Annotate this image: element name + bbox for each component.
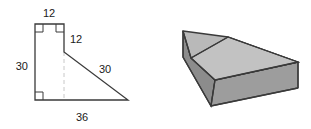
dimension-label-right-upper: 12 [70, 33, 82, 45]
dimension-label-slant: 30 [99, 63, 111, 75]
pictorial-solid-diagram [183, 31, 298, 106]
dimension-label-top: 12 [43, 7, 55, 19]
right-angle-mark-top-right [56, 24, 64, 32]
dimension-label-left: 30 [16, 60, 28, 72]
right-angle-mark-bottom-left [35, 92, 43, 100]
cross-section-diagram: 12 12 30 30 36 [16, 7, 128, 123]
geometry-figure: 12 12 30 30 36 [0, 0, 311, 129]
dimension-label-bottom: 36 [76, 111, 88, 123]
right-angle-mark-top-left [35, 24, 43, 32]
figure-canvas: 12 12 30 30 36 [0, 0, 311, 129]
